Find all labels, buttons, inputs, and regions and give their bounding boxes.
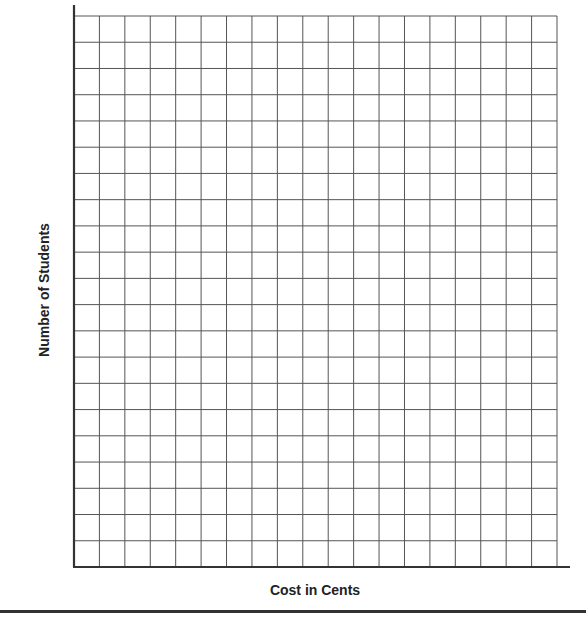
y-axis-label: Number of Students bbox=[36, 223, 52, 357]
bottom-divider bbox=[0, 610, 586, 613]
grid-lines bbox=[74, 16, 557, 567]
blank-graph-grid bbox=[0, 0, 587, 626]
x-axis-label: Cost in Cents bbox=[270, 582, 360, 598]
